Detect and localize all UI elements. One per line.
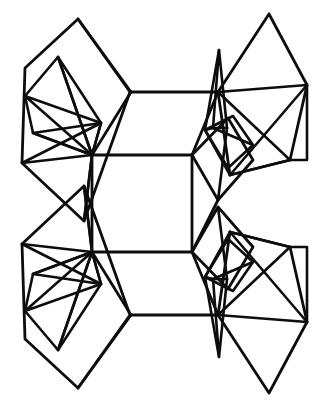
framework-wireframe-svg: [0, 0, 326, 407]
figure-canvas: [0, 0, 326, 407]
figure-background: [0, 0, 326, 407]
